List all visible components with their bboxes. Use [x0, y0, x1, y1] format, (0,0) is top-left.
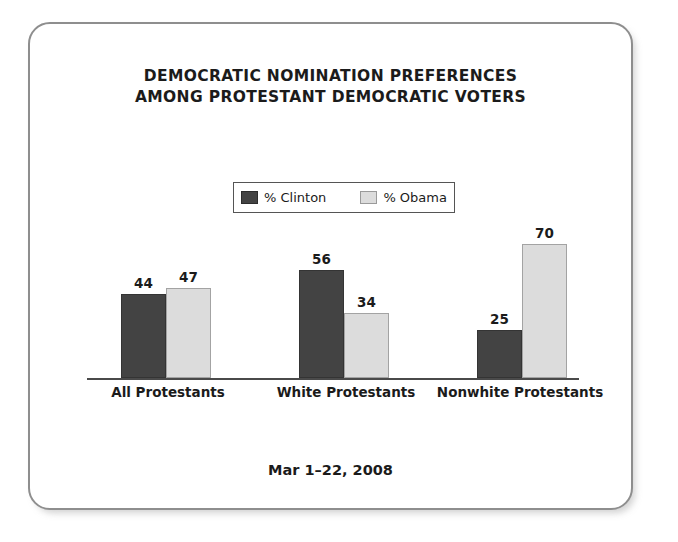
bar-group-white-protestants: 56 34	[299, 234, 389, 378]
clinton-swatch-icon	[241, 191, 258, 204]
bar-value-obama-all: 47	[179, 269, 198, 285]
legend-label-clinton: % Clinton	[264, 190, 326, 205]
chart-card: DEMOCRATIC NOMINATION PREFERENCES AMONG …	[28, 22, 633, 510]
chart-title-line-1: DEMOCRATIC NOMINATION PREFERENCES	[144, 67, 518, 85]
bar-wrapper-obama-all: 47	[166, 234, 211, 378]
category-axis-labels: All Protestants White Protestants Nonwhi…	[87, 384, 579, 406]
bar-value-clinton-nonwhite: 25	[490, 311, 509, 327]
bar-value-clinton-all: 44	[134, 275, 153, 291]
bar-value-obama-white: 34	[357, 294, 376, 310]
obama-swatch-icon	[360, 191, 377, 204]
chart-title: DEMOCRATIC NOMINATION PREFERENCES AMONG …	[30, 66, 631, 108]
chart-screenshot: DEMOCRATIC NOMINATION PREFERENCES AMONG …	[0, 0, 678, 542]
chart-title-line-2: AMONG PROTESTANT DEMOCRATIC VOTERS	[30, 87, 631, 108]
bar-clinton-all: 44	[121, 294, 166, 378]
chart-legend: % Clinton % Obama	[233, 182, 455, 213]
bar-value-obama-nonwhite: 70	[535, 225, 554, 241]
bar-wrapper-clinton-nonwhite: 25	[477, 234, 522, 378]
legend-label-obama: % Obama	[383, 190, 447, 205]
bar-obama-nonwhite: 70	[522, 244, 567, 378]
category-label-white-protestants: White Protestants	[261, 384, 431, 400]
bar-value-clinton-white: 56	[312, 251, 331, 267]
bar-group-nonwhite-protestants: 25 70	[477, 234, 567, 378]
bar-wrapper-clinton-all: 44	[121, 234, 166, 378]
bar-obama-white: 34	[344, 313, 389, 378]
x-axis-baseline	[87, 378, 579, 380]
plot-area: 44 47 56 34	[87, 234, 579, 380]
bar-clinton-white: 56	[299, 270, 344, 378]
bar-group-all-protestants: 44 47	[121, 234, 211, 378]
bar-obama-all: 47	[166, 288, 211, 378]
category-label-all-protestants: All Protestants	[83, 384, 253, 400]
bar-clinton-nonwhite: 25	[477, 330, 522, 378]
category-label-nonwhite-protestants: Nonwhite Protestants	[427, 384, 613, 400]
bar-wrapper-obama-nonwhite: 70	[522, 234, 567, 378]
bar-wrapper-obama-white: 34	[344, 234, 389, 378]
legend-item-obama: % Obama	[360, 190, 447, 205]
chart-footer-date: Mar 1–22, 2008	[30, 462, 631, 478]
legend-item-clinton: % Clinton	[241, 190, 326, 205]
bar-wrapper-clinton-white: 56	[299, 234, 344, 378]
